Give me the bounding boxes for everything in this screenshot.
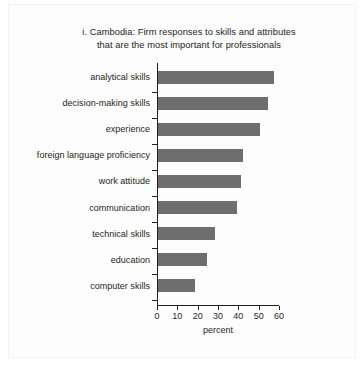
bar xyxy=(158,149,243,162)
x-axis-tick xyxy=(218,306,219,310)
category-label: foreign language proficiency xyxy=(37,150,150,160)
bar xyxy=(158,123,260,136)
bar-row: communication xyxy=(0,197,364,223)
x-axis-tick xyxy=(259,306,260,310)
bar xyxy=(158,279,195,292)
bar-row: analytical skills xyxy=(0,66,364,92)
x-axis-tick xyxy=(279,306,280,310)
chart-figure: i. Cambodia: Firm responses to skills an… xyxy=(0,0,364,365)
bar-row: foreign language proficiency xyxy=(0,144,364,170)
x-axis-tick xyxy=(238,306,239,310)
category-label: technical skills xyxy=(92,229,150,239)
bar-row: education xyxy=(0,249,364,275)
bar xyxy=(158,97,268,110)
x-axis-tick-label: 60 xyxy=(267,311,291,321)
bar-row: computer skills xyxy=(0,275,364,301)
category-label: decision-making skills xyxy=(63,98,150,108)
x-axis-tick xyxy=(157,306,158,310)
bar-row: experience xyxy=(0,118,364,144)
bar xyxy=(158,253,207,266)
bar-row: work attitude xyxy=(0,170,364,196)
category-label: communication xyxy=(89,203,150,213)
bar xyxy=(158,227,215,240)
bar-row: decision-making skills xyxy=(0,92,364,118)
x-axis-tick xyxy=(198,306,199,310)
category-label: education xyxy=(111,255,150,265)
category-label: work attitude xyxy=(99,176,150,186)
category-label: computer skills xyxy=(90,281,150,291)
bar-row: technical skills xyxy=(0,223,364,249)
category-label: analytical skills xyxy=(90,72,150,82)
x-axis-tick xyxy=(177,306,178,310)
bar xyxy=(158,175,241,188)
x-axis-label: percent xyxy=(157,325,279,335)
bar xyxy=(158,71,274,84)
y-axis-tick xyxy=(152,300,157,301)
bar xyxy=(158,201,237,214)
plot-area: analytical skillsdecision-making skillse… xyxy=(0,0,364,365)
category-label: experience xyxy=(106,124,150,134)
